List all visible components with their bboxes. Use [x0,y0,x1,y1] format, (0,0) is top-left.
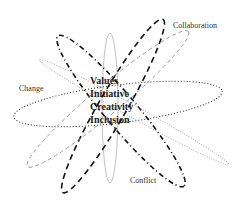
core-values: Values Initiative Creativity Inclusion [90,74,133,126]
diagram-canvas: Collaboration Change Conflict Values Ini… [0,0,241,202]
core-value-creativity: Creativity [90,100,133,113]
core-value-inclusion: Inclusion [90,113,133,126]
core-value-initiative: Initiative [90,87,133,100]
core-value-values: Values [90,74,133,87]
change-label: Change [19,84,43,93]
collaboration-label: Collaboration [173,21,217,30]
conflict-label: Conflict [130,176,156,185]
light-dotted-ellipse [37,54,232,169]
